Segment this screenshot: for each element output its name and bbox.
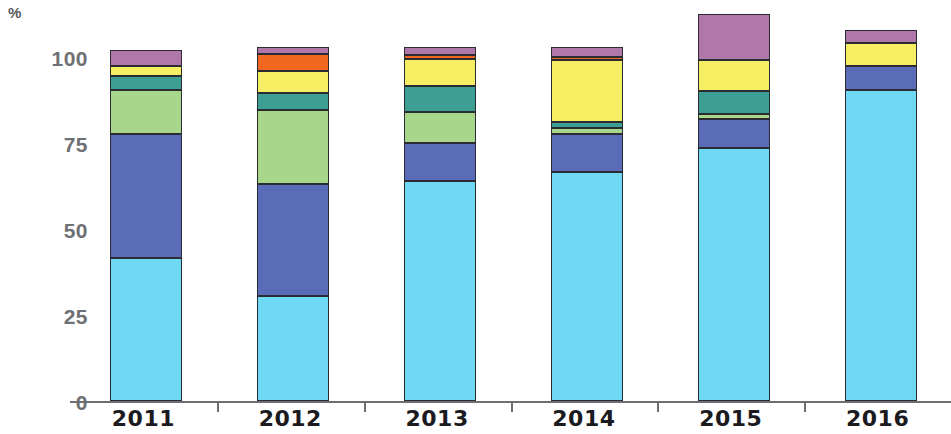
x-axis-label-2014: 2014 (511, 406, 658, 431)
bar-segment[interactable] (110, 50, 182, 65)
bar-segment[interactable] (257, 296, 329, 401)
bar-2015[interactable] (698, 14, 770, 401)
bar-segment[interactable] (404, 47, 476, 56)
bar-segment[interactable] (551, 134, 623, 172)
bar-segment[interactable] (845, 43, 917, 65)
bar-segment[interactable] (698, 119, 770, 148)
bar-2011[interactable] (110, 50, 182, 401)
bar-segment[interactable] (551, 172, 623, 401)
bar-segment[interactable] (698, 60, 770, 91)
bar-segment[interactable] (110, 66, 182, 76)
bar-segment[interactable] (110, 90, 182, 135)
bar-segment[interactable] (845, 30, 917, 44)
bar-segment[interactable] (110, 76, 182, 90)
x-axis-label-2015: 2015 (657, 406, 804, 431)
bar-segment[interactable] (257, 71, 329, 93)
bar-segment[interactable] (404, 86, 476, 112)
bar-2012[interactable] (257, 47, 329, 401)
bar-segment[interactable] (110, 134, 182, 258)
bar-segment[interactable] (404, 55, 476, 58)
bar-segment[interactable] (698, 114, 770, 119)
bar-segment[interactable] (551, 122, 623, 127)
bar-segment[interactable] (845, 90, 917, 401)
bar-segment[interactable] (845, 66, 917, 90)
bar-segment[interactable] (698, 14, 770, 60)
bar-2014[interactable] (551, 47, 623, 401)
bar-segment[interactable] (257, 47, 329, 54)
bar-segment[interactable] (551, 47, 623, 57)
bar-2013[interactable] (404, 47, 476, 401)
bar-segment[interactable] (551, 57, 623, 60)
bar-segment[interactable] (698, 148, 770, 401)
bar-segment[interactable] (257, 110, 329, 184)
plot-area (70, 40, 951, 403)
bar-segment[interactable] (404, 59, 476, 87)
bar-2016[interactable] (845, 29, 917, 401)
bar-segment[interactable] (404, 112, 476, 143)
bar-segment[interactable] (257, 184, 329, 296)
bar-segment[interactable] (404, 143, 476, 181)
x-axis-label-2013: 2013 (364, 406, 511, 431)
stacked-bar-chart: % 100 75 50 25 0 20112012201320142015201… (0, 0, 951, 434)
bar-segment[interactable] (110, 258, 182, 401)
bar-segment[interactable] (551, 60, 623, 122)
bar-segment[interactable] (698, 91, 770, 113)
x-axis-label-2011: 2011 (70, 406, 217, 431)
bar-segment[interactable] (257, 93, 329, 110)
bar-segment[interactable] (404, 181, 476, 401)
x-axis-label-2016: 2016 (804, 406, 951, 431)
bar-segment[interactable] (551, 128, 623, 135)
x-axis-label-2012: 2012 (217, 406, 364, 431)
bar-segment[interactable] (257, 54, 329, 71)
